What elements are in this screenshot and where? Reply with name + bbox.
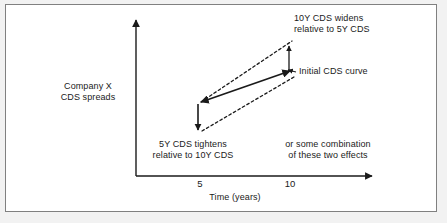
annotation-combination: or some combination of these two effects: [258, 139, 398, 161]
initial-cds-curve-line: [201, 71, 290, 102]
y-axis-label-line1: Company X: [46, 81, 130, 92]
annotation-tightens-line2: relative to 10Y CDS: [128, 150, 258, 161]
annotation-widens-line1: 10Y CDS widens: [294, 13, 424, 24]
figure-container: Company X CDS spreads 10Y CDS widens rel…: [0, 0, 447, 223]
annotation-widens-line2: relative to 5Y CDS: [294, 24, 424, 35]
annotation-widens: 10Y CDS widens relative to 5Y CDS: [294, 13, 424, 35]
annotation-combination-line1: or some combination: [258, 139, 398, 150]
annotation-initial-cds-curve: Initial CDS curve: [299, 66, 419, 77]
annotation-tightens-line1: 5Y CDS tightens: [128, 139, 258, 150]
x-axis-title: Time (years): [160, 192, 310, 203]
y-axis-label: Company X CDS spreads: [46, 81, 130, 103]
y-axis-label-line2: CDS spreads: [46, 92, 130, 103]
dashed-curve-widening: [201, 41, 292, 102]
annotation-tightens: 5Y CDS tightens relative to 10Y CDS: [128, 139, 258, 161]
x-tick-label-5: 5: [186, 178, 214, 189]
x-tick-label-10: 10: [276, 178, 304, 189]
annotation-combination-line2: of these two effects: [258, 150, 398, 161]
annotation-initial-cds-curve-text: Initial CDS curve: [299, 66, 419, 77]
